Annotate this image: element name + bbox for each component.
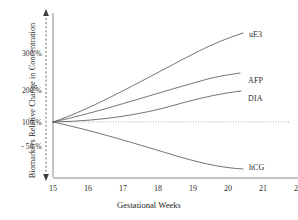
curve-label-afp: AFP: [248, 76, 263, 85]
y-axis-dashed-line: [43, 9, 49, 181]
curve-label-ue3: uE3: [249, 30, 262, 39]
curve-dia: [53, 91, 241, 122]
y-axis-title: Biomarkers Relative Change in Concentrat…: [28, 11, 37, 191]
x-axis-title: Gestational Weeks: [0, 200, 298, 210]
x-tick-label-17: 17: [113, 184, 133, 193]
x-tick-label-15: 15: [43, 184, 63, 193]
y-tick-label-200: 200 %: [8, 86, 42, 95]
y-tick-label-300: 300 %: [8, 49, 42, 58]
x-tick-label-16: 16: [78, 184, 98, 193]
curve-afp: [53, 73, 240, 122]
biomarker-gestational-chart: Biomarkers Relative Change in Concentrat…: [0, 0, 298, 220]
curve-hcg: [53, 122, 243, 169]
curve-label-dia: DIA: [248, 94, 263, 103]
x-tick-label-19: 19: [183, 184, 203, 193]
y-tick-label-100: 100 %: [8, 118, 42, 127]
x-tick-label-22: 22: [288, 184, 298, 193]
y-tick-label-minus-50: - 50 %: [5, 142, 42, 151]
x-tick-label-18: 18: [148, 184, 168, 193]
x-tick-label-20: 20: [218, 184, 238, 193]
curve-label-hcg: hCG: [249, 163, 264, 172]
x-tick-label-21: 21: [253, 184, 273, 193]
